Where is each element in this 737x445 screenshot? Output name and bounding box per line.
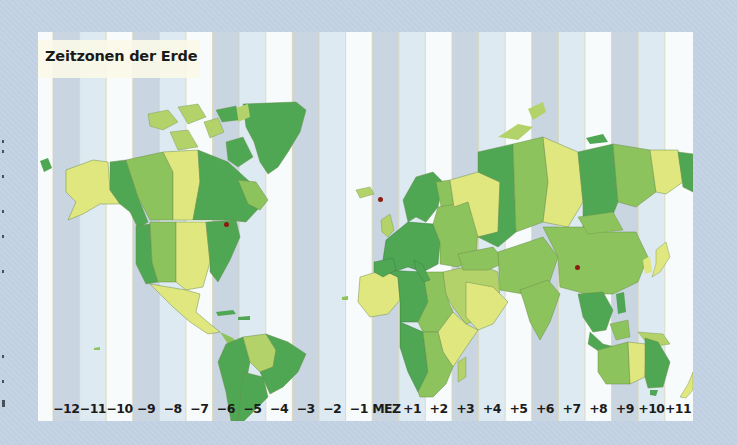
zone-label: +9 xyxy=(611,398,638,420)
zone-label: +4 xyxy=(479,398,506,420)
australia-central xyxy=(628,342,646,384)
margin-marks xyxy=(0,0,10,445)
zone-label-mez: MEZ xyxy=(372,398,399,420)
time-zone-map xyxy=(38,32,693,421)
zone-label: −10 xyxy=(106,398,133,420)
berlin-marker xyxy=(378,197,383,202)
time-zone-labels: −12 −11 −10 −9 −8 −7 −6 −5 −4 −3 −2 −1 M… xyxy=(53,398,693,420)
zone-label: +8 xyxy=(585,398,612,420)
zone-label: −2 xyxy=(319,398,346,420)
zone-label: +2 xyxy=(425,398,452,420)
zone-label: −1 xyxy=(346,398,373,420)
world-map-svg xyxy=(38,32,693,421)
zone-label: +5 xyxy=(505,398,532,420)
zone-label: −5 xyxy=(239,398,266,420)
zone-label: +3 xyxy=(452,398,479,420)
zone-label: −7 xyxy=(186,398,213,420)
usa-central xyxy=(176,222,210,290)
zone-label: +7 xyxy=(558,398,585,420)
bangkok-marker xyxy=(575,265,580,270)
zone-label: +6 xyxy=(532,398,559,420)
map-title: Zeitzonen der Erde xyxy=(45,48,197,64)
zone-label: −3 xyxy=(292,398,319,420)
russia-ural xyxy=(513,137,548,232)
zone-label: −6 xyxy=(213,398,240,420)
new-york-marker xyxy=(224,222,229,227)
zone-label: −4 xyxy=(266,398,293,420)
zone-label: −12 xyxy=(53,398,80,420)
zone-label: −11 xyxy=(80,398,107,420)
zone-label: −8 xyxy=(159,398,186,420)
zone-label: +10 xyxy=(638,398,665,420)
zone-label: +1 xyxy=(399,398,426,420)
zone-label: −9 xyxy=(133,398,160,420)
zone-label: +11 xyxy=(665,398,692,420)
